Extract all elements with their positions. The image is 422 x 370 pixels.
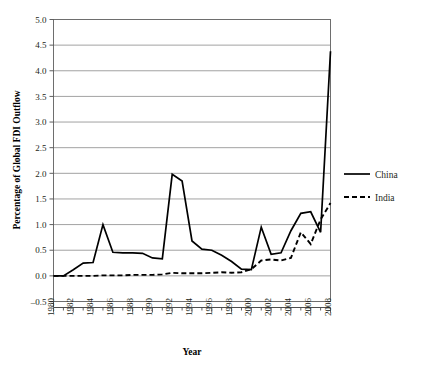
fdi-outflow-line-chart: 5.04.54.03.53.02.52.01.51.00.50.0–0.5 19…: [0, 0, 422, 370]
x-axis-tick-labels: 1980198219841986198819901992199419961998…: [46, 298, 333, 317]
x-tick-label: 1998: [224, 298, 234, 317]
x-tick-label: 1994: [184, 298, 194, 317]
legend-label-india: India: [375, 193, 395, 203]
x-tick-label: 1992: [164, 298, 174, 316]
x-tick-label: 1996: [204, 298, 214, 317]
legend-label-china: China: [375, 170, 398, 180]
y-tick-label: 3.5: [35, 92, 47, 102]
x-tick-label: 2006: [303, 298, 313, 317]
y-tick-label: 2.0: [35, 169, 47, 179]
x-tick-label: 2000: [243, 298, 253, 317]
x-tick-label: 1986: [105, 298, 115, 317]
y-tick-label: 5.0: [35, 15, 47, 25]
x-tick-label: 1982: [65, 298, 75, 316]
x-tick-label: 1988: [125, 298, 135, 317]
y-tick-label: 0.0: [35, 271, 47, 281]
y-tick-label: 1.0: [35, 220, 47, 230]
x-tick-label: 1990: [144, 298, 154, 317]
x-tick-label: 1980: [46, 298, 56, 317]
y-tick-label: 3.0: [35, 117, 47, 127]
y-axis-title: Percentage of Global FDI Outflow: [12, 90, 22, 229]
y-tick-label: –0.5: [30, 297, 47, 307]
y-tick-label: 0.5: [35, 245, 47, 255]
y-tick-label: 4.0: [35, 66, 47, 76]
chart-svg: 5.04.54.03.53.02.52.01.51.00.50.0–0.5 19…: [0, 0, 422, 370]
x-tick-label: 2004: [283, 298, 293, 317]
x-tick-label: 2002: [263, 298, 273, 316]
x-tick-label: 2008: [323, 298, 333, 317]
x-axis-title: Year: [183, 347, 203, 357]
y-tick-label: 1.5: [35, 194, 47, 204]
y-tick-label: 2.5: [35, 143, 47, 153]
y-tick-label: 4.5: [35, 40, 47, 50]
x-tick-label: 1984: [85, 298, 95, 317]
